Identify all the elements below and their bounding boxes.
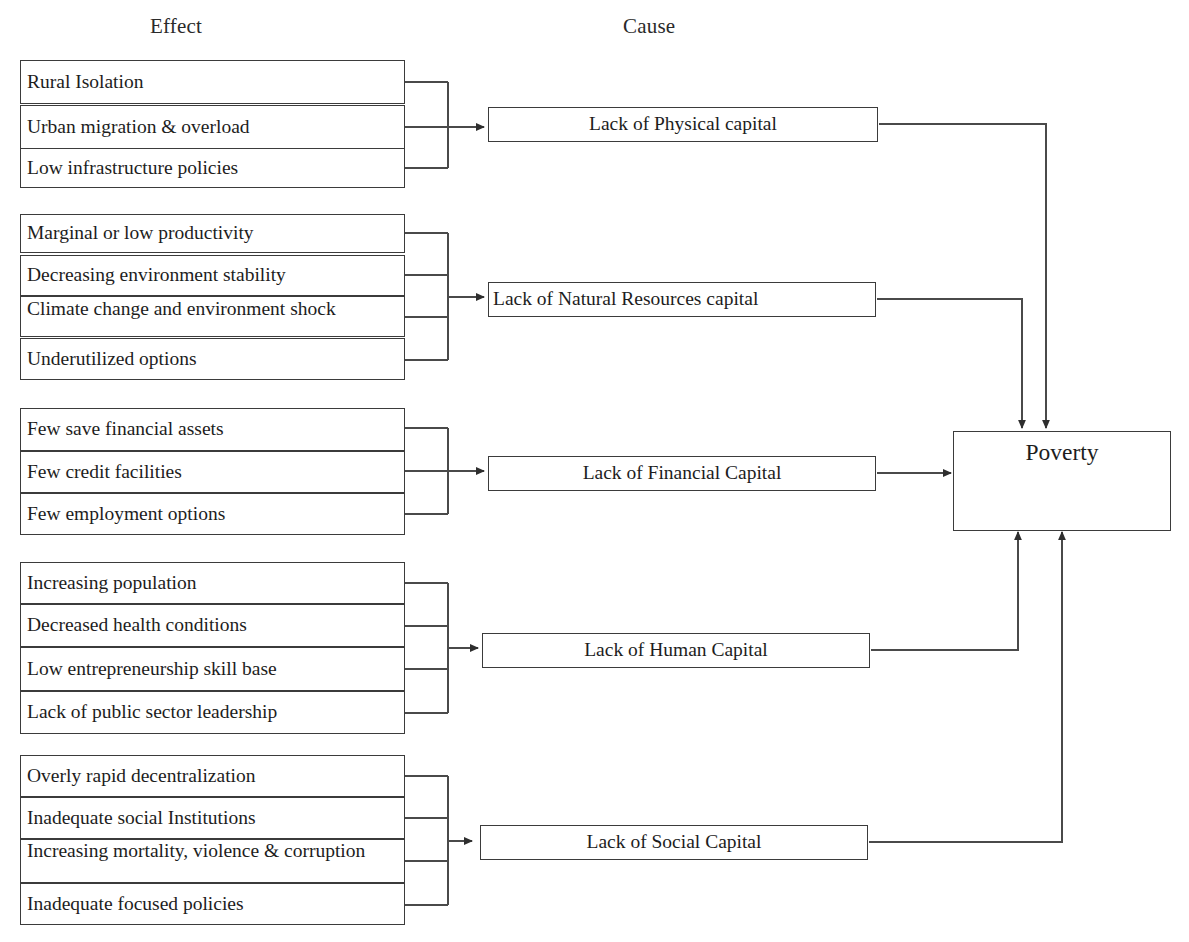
- effect-box[interactable]: Lack of public sector leadership: [20, 691, 405, 734]
- effect-label: Rural Isolation: [27, 72, 143, 93]
- effect-box[interactable]: Decreased health conditions: [20, 604, 405, 647]
- effect-label: Low infrastructure policies: [27, 158, 238, 179]
- cause-box-human-capital[interactable]: Lack of Human Capital: [482, 633, 870, 668]
- effect-label: Urban migration & overload: [27, 117, 250, 138]
- effect-box[interactable]: Inadequate social Institutions: [20, 797, 405, 839]
- effect-box[interactable]: Increasing population: [20, 562, 405, 604]
- cause-box-physical-capital[interactable]: Lack of Physical capital: [488, 107, 878, 142]
- cause-label: Lack of Social Capital: [587, 832, 762, 853]
- effect-label: Decreased health conditions: [27, 615, 247, 636]
- effect-label: Few employment options: [27, 504, 225, 525]
- cause-label: Lack of Financial Capital: [583, 463, 782, 484]
- effect-label: Climate change and environment shock: [27, 299, 336, 320]
- effect-box[interactable]: Few credit facilities: [20, 451, 405, 493]
- column-header-effect: Effect: [150, 14, 202, 39]
- effect-label: Inadequate social Institutions: [27, 808, 256, 829]
- cause-label: Lack of Natural Resources capital: [493, 289, 758, 310]
- diagram-canvas: Effect Cause: [0, 0, 1189, 942]
- effect-box[interactable]: Few employment options: [20, 493, 405, 535]
- effect-box[interactable]: Rural Isolation: [20, 60, 405, 104]
- effect-box[interactable]: Low entrepreneurship skill base: [20, 647, 405, 691]
- effect-box[interactable]: Increasing mortality, violence & corrupt…: [20, 839, 405, 883]
- effect-label: Decreasing environment stability: [27, 265, 286, 286]
- cause-label: Lack of Physical capital: [589, 114, 777, 135]
- cause-label: Lack of Human Capital: [584, 640, 768, 661]
- outcome-box-poverty[interactable]: Poverty: [953, 431, 1171, 531]
- effect-label: Marginal or low productivity: [27, 223, 254, 244]
- column-header-cause: Cause: [623, 14, 675, 39]
- effect-label: Low entrepreneurship skill base: [27, 659, 277, 680]
- effect-box[interactable]: Low infrastructure policies: [20, 148, 405, 188]
- effect-box[interactable]: Urban migration & overload: [20, 105, 405, 149]
- effect-label: Overly rapid decentralization: [27, 766, 255, 787]
- cause-box-financial-capital[interactable]: Lack of Financial Capital: [488, 456, 876, 491]
- effect-label: Increasing population: [27, 573, 197, 594]
- effect-box[interactable]: Marginal or low productivity: [20, 214, 405, 253]
- effect-label: Increasing mortality, violence & corrupt…: [27, 841, 365, 862]
- effect-label: Few credit facilities: [27, 462, 182, 483]
- effect-box[interactable]: Few save financial assets: [20, 408, 405, 451]
- effect-label: Underutilized options: [27, 349, 197, 370]
- effect-label: Inadequate focused policies: [27, 894, 244, 915]
- cause-box-social-capital[interactable]: Lack of Social Capital: [480, 825, 868, 860]
- effect-box[interactable]: Decreasing environment stability: [20, 255, 405, 296]
- effect-box[interactable]: Inadequate focused policies: [20, 883, 405, 925]
- effect-box[interactable]: Overly rapid decentralization: [20, 755, 405, 797]
- effect-box[interactable]: Underutilized options: [20, 338, 405, 380]
- effect-label: Lack of public sector leadership: [27, 702, 277, 723]
- effect-label: Few save financial assets: [27, 419, 224, 440]
- effect-box[interactable]: Climate change and environment shock: [20, 296, 405, 337]
- cause-box-natural-resources-capital[interactable]: Lack of Natural Resources capital: [488, 282, 876, 317]
- outcome-label: Poverty: [1025, 440, 1098, 465]
